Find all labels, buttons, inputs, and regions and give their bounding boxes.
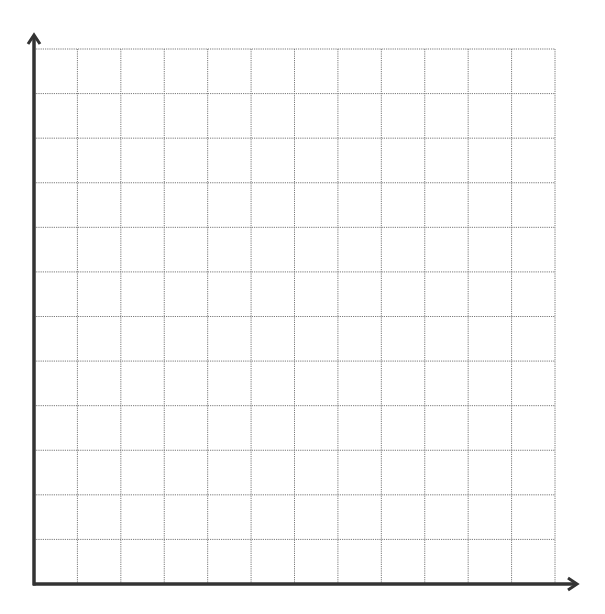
grid-lines bbox=[34, 49, 555, 584]
axes bbox=[28, 35, 577, 590]
coordinate-grid bbox=[0, 0, 605, 614]
